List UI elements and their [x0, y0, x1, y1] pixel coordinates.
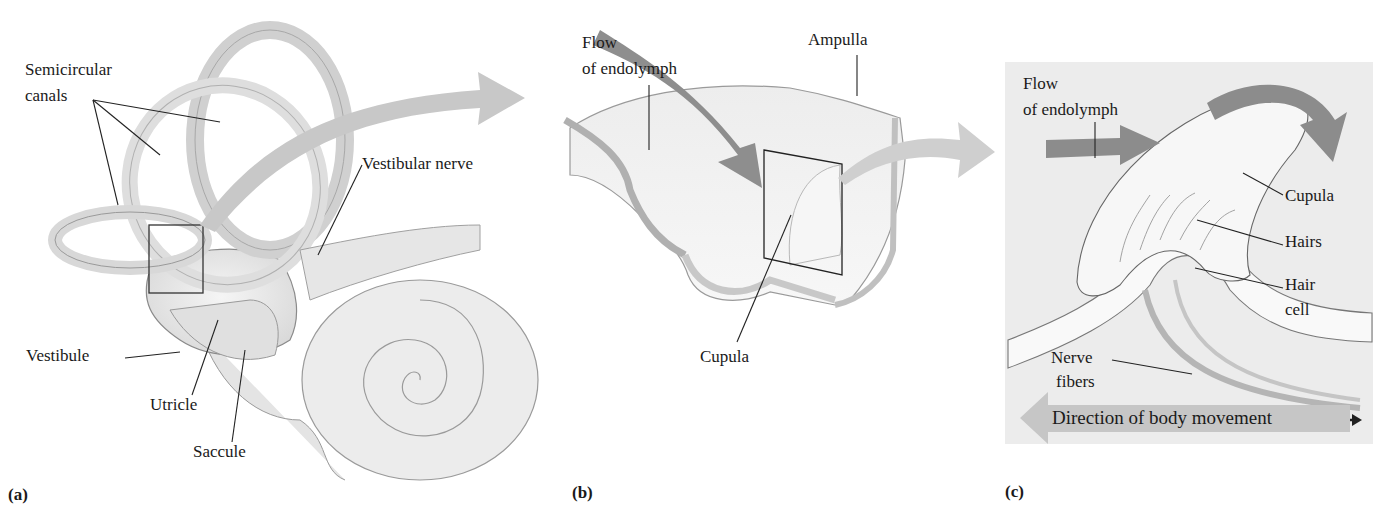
label-vestibule: Vestibule: [26, 346, 89, 366]
label-flow-b-line2: of endolymph: [582, 59, 677, 79]
panel-label-b: (b): [572, 483, 593, 503]
label-hair-cell-line2: cell: [1285, 300, 1310, 320]
label-cupula-c: Cupula: [1285, 186, 1334, 206]
label-flow-b-line1: Flow: [582, 33, 617, 53]
label-cupula-b: Cupula: [700, 347, 749, 367]
label-hairs: Hairs: [1285, 232, 1322, 252]
label-vestibular-nerve: Vestibular nerve: [362, 154, 473, 174]
label-nerve-line2: fibers: [1056, 372, 1095, 392]
label-saccule: Saccule: [193, 442, 246, 462]
panel-label-a: (a): [8, 485, 28, 505]
label-flow-c-line2: of endolymph: [1023, 100, 1118, 120]
label-nerve-line1: Nerve: [1051, 348, 1093, 368]
label-utricle: Utricle: [150, 395, 197, 415]
label-direction-of-body-movement: Direction of body movement: [1052, 407, 1272, 429]
label-hair-cell-line1: Hair: [1285, 275, 1315, 295]
label-canals: canals: [25, 86, 67, 106]
inner-ear-illustration: [55, 30, 538, 480]
panel-label-c: (c): [1005, 482, 1024, 502]
label-ampulla: Ampulla: [808, 30, 868, 50]
label-semicircular: Semicircular: [25, 60, 112, 80]
label-flow-c-line1: Flow: [1023, 74, 1058, 94]
